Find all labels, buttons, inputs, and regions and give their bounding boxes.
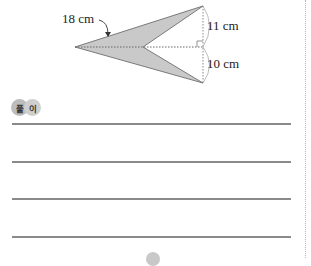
solution-badge-char-2: 이 [24, 99, 41, 116]
arrowhead-figure: 18 cm 11 cm 10 cm [0, 0, 311, 95]
solution-badge: 풀 이 [11, 99, 41, 117]
answer-line-1[interactable] [12, 123, 291, 125]
top-height-label: 11 cm [207, 18, 239, 34]
right-angle-mark [197, 41, 203, 47]
dotted-cut-line [305, 0, 306, 258]
shaded-quadrilateral [75, 6, 203, 83]
answer-line-2[interactable] [12, 161, 291, 163]
length-label: 18 cm [62, 11, 94, 27]
answer-line-4[interactable] [12, 236, 291, 238]
figure-diagram [0, 0, 311, 95]
bottom-height-label: 10 cm [207, 56, 239, 72]
page-marker-circle [146, 252, 160, 266]
length-pointer-arrow [99, 20, 108, 34]
answer-line-3[interactable] [12, 198, 291, 200]
